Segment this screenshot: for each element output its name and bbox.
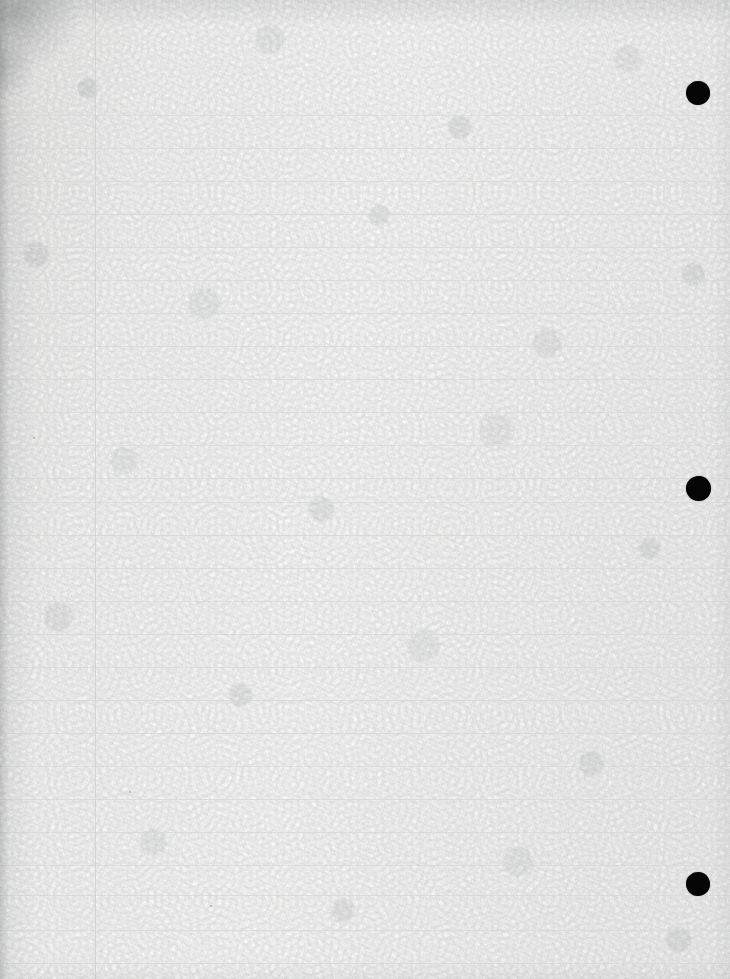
paper-background — [0, 0, 730, 979]
registration-mark-dot — [686, 476, 711, 501]
registration-mark-dot — [686, 81, 710, 105]
scanned-page — [0, 0, 730, 979]
registration-mark-dot — [686, 872, 710, 896]
